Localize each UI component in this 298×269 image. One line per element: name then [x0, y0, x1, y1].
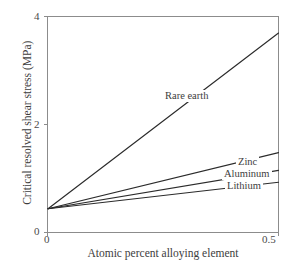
series-label-zinc: Zinc — [236, 156, 259, 168]
y-tick-label-4: 4 — [34, 11, 40, 22]
series-label-rare-earth: Rare earth — [163, 90, 210, 102]
y-tick-label-2: 2 — [34, 119, 40, 130]
plot-area — [0, 0, 298, 269]
series-label-aluminum: Aluminum — [222, 168, 272, 180]
x-tick-label-0: 0 — [44, 234, 50, 245]
chart-figure: 4 2 0 0 0.5 Critical resolved shear stre… — [0, 0, 298, 269]
x-axis-title: Atomic percent alloying element — [48, 248, 278, 260]
y-tick-label-0: 0 — [34, 226, 40, 237]
x-tick-label-05: 0.5 — [262, 234, 276, 245]
y-axis-title: Critical resolved shear stress (MPa) — [22, 18, 34, 228]
series-label-lithium: Lithium — [225, 180, 263, 192]
